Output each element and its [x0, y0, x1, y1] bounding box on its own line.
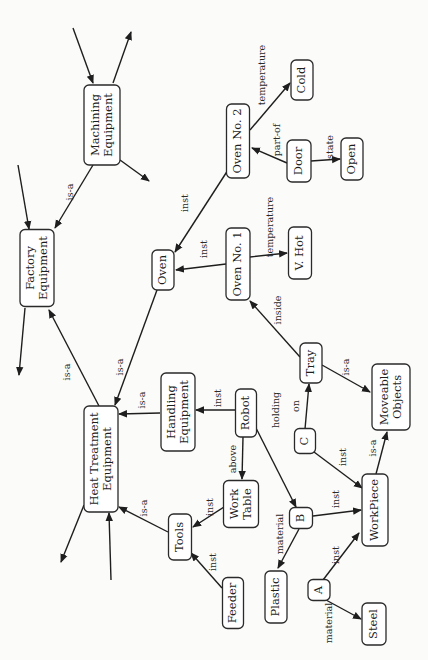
edge-label: above [227, 444, 238, 473]
arrow-icon [305, 384, 309, 429]
arrow-icon [113, 32, 131, 83]
arrow-icon [176, 264, 226, 270]
edge-label: temperature [256, 44, 267, 105]
edge-c-tray: on [290, 384, 310, 429]
edge-label: inst [330, 546, 341, 564]
node-label: Equipment [101, 93, 115, 157]
node-tray: Tray [300, 343, 322, 383]
node-oven1: Oven No. 1 [226, 228, 250, 300]
edge-oven2-oven: inst [175, 170, 228, 252]
edge-label: inside [272, 295, 283, 324]
dangling-edge [19, 308, 25, 375]
edge-label: on [290, 400, 301, 412]
arrow-icon [255, 426, 296, 507]
arrow-icon [61, 505, 84, 562]
edge-label: is-a [64, 183, 75, 200]
node-label: Table [240, 488, 254, 520]
node-label: Feeder [225, 582, 239, 623]
node-feeder: Feeder [223, 578, 244, 629]
node-label: Oven No. 2 [230, 108, 244, 173]
edge-workpiece-moveable: is-a [367, 432, 388, 474]
arrow-icon [323, 533, 359, 580]
edge-label: inst [204, 498, 215, 516]
node-b: B [290, 508, 313, 529]
node-label: Equipment [100, 427, 114, 491]
edge-a-workpiece: inst [323, 533, 359, 580]
dangling-edge [120, 160, 149, 181]
node-worktable: WorkTable [224, 481, 259, 528]
node-label: Factory [23, 245, 37, 290]
node-label: Steel [366, 609, 380, 639]
node-oven: Oven [152, 250, 174, 290]
edge-b-workpiece: inst [313, 490, 361, 516]
edge-label: is-a [367, 439, 378, 456]
node-label: Tray [303, 349, 317, 376]
edge-oven1-vhot: temperature [250, 196, 287, 257]
node-machining: MachiningEquipment [84, 85, 120, 165]
edge-label: inst [337, 448, 348, 466]
edge-label: inst [330, 490, 341, 508]
node-factory: FactoryEquipment [20, 230, 54, 307]
node-label: Cold [294, 66, 308, 93]
edge-worktable-tools: inst [193, 498, 224, 527]
arrow-icon [109, 513, 111, 580]
node-label: Tools [172, 522, 186, 552]
edge-label: is-a [136, 391, 147, 408]
arrow-icon [120, 160, 149, 181]
node-label: Work [227, 488, 241, 519]
node-label: Plastic [268, 578, 282, 617]
node-label: Handling [164, 384, 178, 438]
edge-robot-handling: inst [196, 389, 235, 410]
edge-label: temperature [264, 196, 275, 257]
arrow-icon [49, 310, 99, 406]
node-label: B [293, 514, 307, 522]
edge-tray-oven1: inside [250, 295, 300, 357]
edge-handling-heat: is-a [119, 391, 160, 414]
node-label: A [311, 585, 325, 595]
dangling-edge [109, 513, 111, 580]
edge-label: is-a [138, 499, 149, 516]
edge-oven2-cold: temperature [250, 44, 290, 130]
edge-oven-heat: is-a [114, 290, 158, 405]
node-label: Oven [155, 254, 169, 285]
edge-label: is-a [114, 358, 125, 375]
arrow-icon [19, 308, 25, 375]
semantic-network-diagram: is-ainstinsttemperaturepart-ofstatetempe… [0, 0, 428, 660]
edge-tray-moveable: is-a [322, 358, 370, 392]
node-handling: HandlingEquipment [161, 373, 195, 451]
edge-tools-heat: is-a [119, 499, 168, 532]
node-label: Door [291, 146, 305, 175]
node-label: V. Hot [292, 235, 306, 272]
arrow-icon [376, 432, 387, 474]
node-label: Moveable [377, 368, 391, 425]
node-tools: Tools [169, 514, 192, 560]
edge-label: inst [212, 389, 223, 407]
edge-label: holding [270, 392, 281, 428]
edge-label: state [324, 135, 335, 159]
edge-label: inst [198, 240, 209, 258]
edge-label: is-a [340, 358, 351, 375]
node-a: A [308, 580, 330, 601]
arrow-icon [18, 165, 29, 229]
node-label: WorkPiece [367, 479, 381, 541]
node-label: Robot [238, 395, 252, 430]
node-moveable: MoveableObjects [372, 364, 410, 430]
edge-robot-worktable: above [227, 437, 244, 479]
edge-heat-factory: is-a [49, 310, 99, 406]
edge-machining-factory: is-a [55, 165, 93, 228]
arrow-icon [242, 437, 243, 479]
edge-oven1-oven: inst [176, 240, 226, 270]
edge-c-workpiece: inst [314, 448, 362, 488]
dangling-edge [113, 32, 131, 83]
edge-label: inst [179, 194, 190, 212]
edge-a-steel: material [323, 600, 362, 643]
edge-label: material [274, 514, 285, 554]
node-workpiece: WorkPiece [362, 474, 388, 546]
dangling-edge [61, 505, 84, 562]
node-label: Equipment [36, 236, 50, 300]
edge-feeder-tools: inst [191, 553, 222, 588]
edge-label: material [323, 603, 334, 643]
node-label: Open [344, 143, 358, 175]
node-steel: Steel [362, 603, 386, 645]
edge-label: inst [207, 553, 218, 571]
